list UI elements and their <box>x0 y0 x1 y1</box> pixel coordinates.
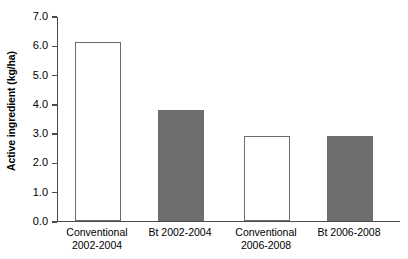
y-axis-ticks: 7.06.05.04.03.02.01.00.0 <box>0 0 57 259</box>
bar-2 <box>158 110 204 221</box>
x-axis-ticks: Conventional2002-2004Bt 2002-2004Convent… <box>57 226 400 259</box>
x-tick-label-line1: Conventional <box>235 226 296 238</box>
x-tick-label-line1: Bt 2006-2008 <box>317 226 380 238</box>
bar-chart-figure: Active ingredient (kg/ha) 7.06.05.04.03.… <box>0 0 408 259</box>
y-tick-label: 2.0 <box>33 156 48 169</box>
y-tick-label: 6.0 <box>33 39 48 52</box>
bar-4 <box>327 136 373 221</box>
y-tick-label: 1.0 <box>33 186 48 199</box>
bar-3 <box>244 136 290 221</box>
x-tick-label-line1: Conventional <box>66 226 127 238</box>
y-tick-label: 4.0 <box>33 98 48 111</box>
y-tick-label: 3.0 <box>33 127 48 140</box>
bar-1 <box>75 42 121 221</box>
x-tick-label-line2: 2006-2008 <box>206 239 326 252</box>
x-tick-label-line1: Bt 2002-2004 <box>148 226 211 238</box>
x-tick-label-4: Bt 2006-2008 <box>289 226 408 239</box>
plot-area <box>57 17 400 222</box>
y-tick-label: 7.0 <box>33 10 48 23</box>
x-tick-label-line2: 2002-2004 <box>37 239 157 252</box>
y-tick-label: 5.0 <box>33 69 48 82</box>
